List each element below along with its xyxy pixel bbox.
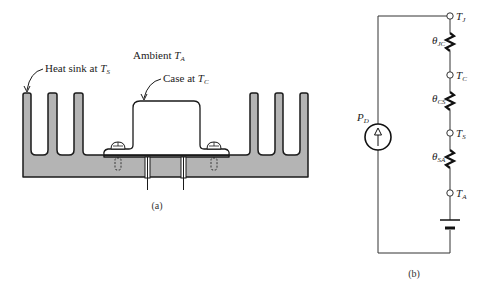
resistor-label-theta-cs: θCS bbox=[432, 92, 446, 106]
heat-sink-label: Heat sink at TS bbox=[45, 62, 110, 76]
resistor-label-theta-jc: θJC bbox=[432, 34, 446, 48]
node-ts bbox=[447, 130, 453, 136]
figure-canvas: Heat sink at TS Ambient TA Case at TC (a… bbox=[0, 0, 490, 285]
resistor-theta-cs bbox=[446, 92, 454, 110]
node-ta bbox=[447, 190, 453, 196]
source-label-pd: PD bbox=[356, 111, 369, 125]
heat-sink-diagram: Heat sink at TS Ambient TA Case at TC (a… bbox=[23, 49, 322, 212]
power-source-pd bbox=[365, 124, 391, 150]
resistor-theta-jc bbox=[446, 33, 454, 51]
caption-a: (a) bbox=[151, 200, 162, 212]
resistor-theta-sa bbox=[446, 150, 454, 168]
circuit-wire-bottom bbox=[378, 150, 450, 253]
node-label-ta: TA bbox=[456, 187, 467, 201]
node-label-ts: TS bbox=[456, 127, 466, 141]
resistor-label-theta-sa: θSA bbox=[432, 150, 446, 164]
thermal-circuit-diagram: TJ TC TS TA θJC θCS θSA PD (b) bbox=[356, 10, 467, 280]
screw-head-right bbox=[207, 142, 221, 149]
node-tj bbox=[447, 13, 453, 19]
node-label-tc: TC bbox=[456, 69, 467, 83]
node-tc bbox=[447, 72, 453, 78]
node-label-tj: TJ bbox=[456, 10, 466, 24]
circuit-wire-top bbox=[378, 16, 448, 124]
case-label: Case at TC bbox=[163, 72, 209, 86]
ambient-label: Ambient TA bbox=[133, 49, 185, 63]
screw-head-left bbox=[111, 142, 125, 149]
caption-b: (b) bbox=[408, 268, 420, 280]
